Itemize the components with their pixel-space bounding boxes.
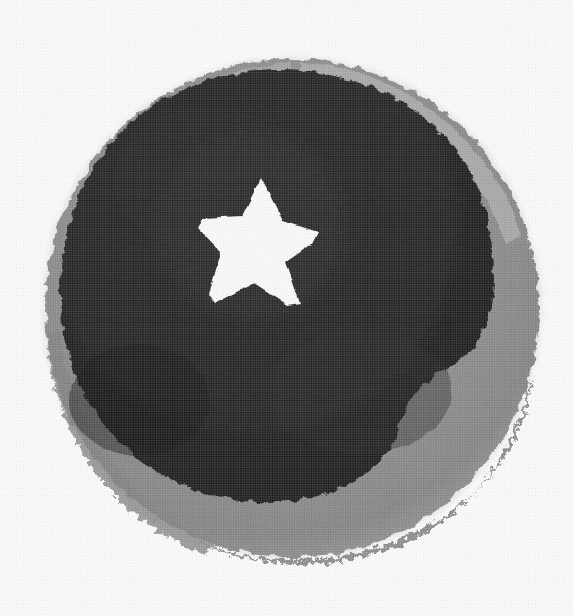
image-canvas: circular badge with five-pointed star cu… (0, 0, 573, 616)
scanned-badge-artwork (0, 0, 573, 616)
halftone-grain-overlay (0, 0, 573, 616)
